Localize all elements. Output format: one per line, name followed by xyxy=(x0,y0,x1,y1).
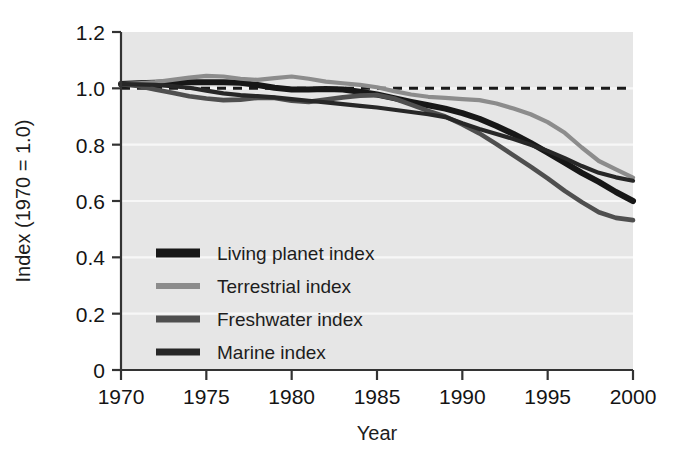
y-tick-label: 0.6 xyxy=(76,190,105,213)
legend-swatch xyxy=(156,283,200,289)
living-planet-index-chart: 00.20.40.60.81.01.2 19701975198019851990… xyxy=(0,0,691,463)
x-axis-title: Year xyxy=(357,422,398,444)
x-tick-label: 1990 xyxy=(439,385,486,408)
x-tick-label: 1985 xyxy=(354,385,401,408)
x-tick-label: 2000 xyxy=(610,385,657,408)
y-tick-label: 0.8 xyxy=(76,134,105,157)
x-tick-label: 1980 xyxy=(268,385,315,408)
x-tick-label: 1970 xyxy=(98,385,145,408)
legend-label: Marine index xyxy=(217,342,326,363)
y-tick-label: 0.4 xyxy=(76,246,106,269)
x-tick-label: 1995 xyxy=(524,385,571,408)
y-tick-label: 1.2 xyxy=(76,21,105,44)
x-axis-tick-labels: 1970197519801985199019952000 xyxy=(98,385,657,408)
legend-swatch xyxy=(156,316,200,323)
y-tick-label: 1.0 xyxy=(76,77,105,100)
legend-swatch xyxy=(156,349,200,356)
x-tick-label: 1975 xyxy=(183,385,230,408)
legend-swatch xyxy=(156,249,200,258)
y-tick-label: 0.2 xyxy=(76,303,105,326)
x-axis-ticks xyxy=(121,370,633,380)
y-tick-label: 0 xyxy=(93,359,105,382)
y-axis-tick-labels: 00.20.40.60.81.01.2 xyxy=(76,21,106,382)
legend-label: Living planet index xyxy=(217,243,375,264)
legend-label: Terrestrial index xyxy=(217,276,352,297)
y-axis-title: Index (1970 = 1.0) xyxy=(12,120,34,283)
legend-label: Freshwater index xyxy=(217,309,363,330)
